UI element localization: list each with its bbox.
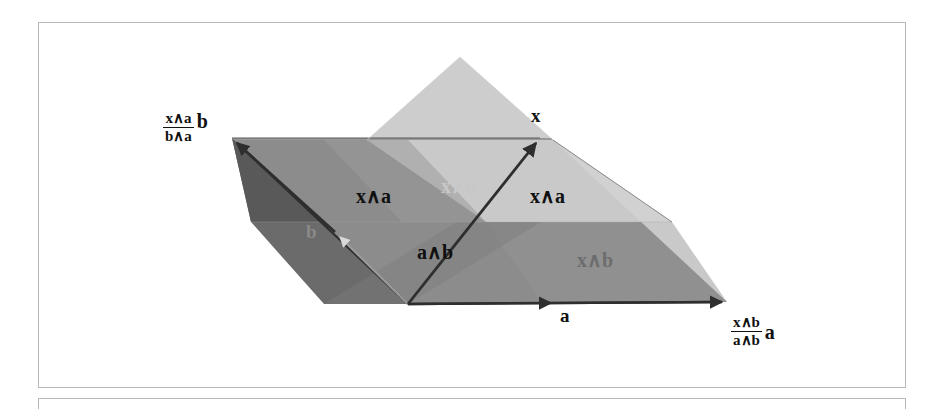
vector-label-b: b <box>306 222 317 241</box>
fraction-stack-a: x∧b a∧b <box>731 315 762 348</box>
fraction-coefficient-b: b <box>194 111 208 131</box>
region-light-top-triangle <box>367 57 553 140</box>
fraction-coefficient-a: a <box>762 322 775 342</box>
vector-label-x: x <box>531 106 541 125</box>
fraction-numerator-b: x∧a <box>163 111 193 127</box>
vector-label-a: a <box>560 306 570 325</box>
region-label-x-wedge-a-right: x∧a <box>530 186 565 206</box>
fraction-stack-b: x∧a b∧a <box>163 111 194 144</box>
region-label-x-wedge-b-bottom: x∧b <box>577 250 613 270</box>
fraction-label-a: x∧b a∧b a <box>731 315 775 348</box>
fraction-numerator-a: x∧b <box>731 315 762 331</box>
vector-diagram-canvas <box>0 0 942 409</box>
region-label-x-wedge-b-top: x∧b <box>441 176 477 196</box>
fraction-denominator-b: b∧a <box>163 128 194 144</box>
region-label-a-wedge-b: a∧b <box>417 242 453 262</box>
fraction-label-b: x∧a b∧a b <box>163 111 208 144</box>
fraction-denominator-a: a∧b <box>731 332 762 348</box>
region-label-x-wedge-a-left: x∧a <box>356 186 391 206</box>
